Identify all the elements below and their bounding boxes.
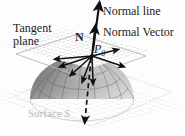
label-tangent-plane-line2: plane xyxy=(13,35,51,48)
label-normal-line: Normal line xyxy=(103,5,161,18)
label-normal-vector-symbol: N xyxy=(75,31,84,44)
label-tangent-plane: Tangent plane xyxy=(13,22,51,47)
point-subscript: 0 xyxy=(101,49,105,58)
tangent-plane-normal-line-figure: Normal line Normal Vector Tangent plane … xyxy=(0,0,185,136)
surface-letter: S xyxy=(64,107,70,119)
label-surface-s: Surface S xyxy=(28,108,70,120)
label-tangent-plane-line1: Tangent xyxy=(13,22,51,35)
surface-word: Surface xyxy=(28,107,64,119)
label-point-p0: P0 xyxy=(94,43,105,59)
label-normal-vector: Normal Vector xyxy=(103,26,174,39)
